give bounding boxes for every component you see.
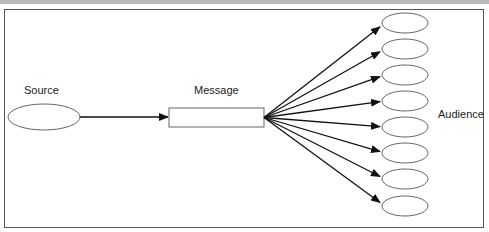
audience-node: [382, 39, 428, 59]
audience-node: [382, 169, 428, 189]
message-node: [169, 108, 264, 127]
audience-node: [382, 117, 428, 137]
audience-node: [382, 143, 428, 163]
fan-arrow: [264, 118, 380, 203]
audience-node: [382, 91, 428, 111]
message-to-audience-arrows: [264, 27, 380, 203]
source-label: Source: [24, 84, 59, 96]
audience-nodes: [382, 13, 428, 216]
message-label: Message: [194, 84, 239, 96]
fan-arrow: [264, 77, 380, 118]
communication-diagram: [0, 0, 489, 232]
audience-label: Audience: [438, 108, 484, 120]
audience-node: [382, 13, 428, 33]
source-node: [8, 104, 80, 130]
audience-node: [382, 65, 428, 85]
fan-arrow: [264, 52, 380, 118]
audience-node: [382, 196, 428, 216]
